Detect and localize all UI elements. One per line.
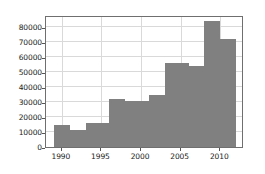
histogram-bar [189, 66, 205, 147]
histogram-bar [109, 99, 125, 147]
histogram-bar [149, 95, 165, 147]
y-tick-mark [42, 133, 45, 134]
y-tick-mark [42, 43, 45, 44]
histogram-bar [86, 123, 110, 147]
x-tick-label: 2010 [199, 153, 239, 161]
histogram-bar [204, 21, 220, 147]
y-tick-label: 70000 [19, 39, 42, 47]
x-tick-label: 1995 [80, 153, 120, 161]
y-tick-mark [42, 118, 45, 119]
histogram-bar [70, 130, 86, 147]
y-tick-mark [42, 73, 45, 74]
y-tick-mark [42, 58, 45, 59]
x-tick-label: 1990 [41, 153, 81, 161]
x-tick-mark [61, 148, 62, 151]
x-tick-mark [100, 148, 101, 151]
histogram-bar [165, 63, 189, 147]
y-axis-tick-labels: 0100002000030000400005000060000700008000… [0, 0, 42, 174]
y-tick-label: 40000 [19, 84, 42, 92]
y-tick-mark [42, 28, 45, 29]
histogram-bar [54, 125, 70, 147]
y-tick-label: 60000 [19, 54, 42, 62]
y-tick-label: 80000 [19, 24, 42, 32]
x-tick-mark [219, 148, 220, 151]
histogram-figure: 0100002000030000400005000060000700008000… [0, 0, 265, 174]
histogram-bar [125, 101, 149, 147]
y-tick-mark [42, 88, 45, 89]
y-tick-label: 10000 [19, 129, 42, 137]
x-tick-mark [140, 148, 141, 151]
histogram-bar [220, 39, 236, 147]
y-tick-label: 50000 [19, 69, 42, 77]
plot-area [45, 16, 243, 148]
y-tick-label: 30000 [19, 99, 42, 107]
y-tick-mark [42, 148, 45, 149]
x-tick-label: 2000 [120, 153, 160, 161]
x-tick-label: 2005 [160, 153, 200, 161]
y-tick-label: 20000 [19, 114, 42, 122]
y-tick-mark [42, 103, 45, 104]
x-tick-mark [180, 148, 181, 151]
